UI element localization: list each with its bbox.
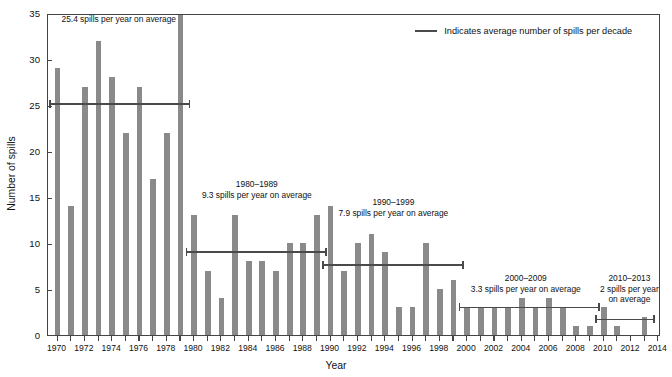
x-tick-label: 2014 bbox=[637, 343, 672, 353]
x-tick-mark bbox=[152, 336, 153, 341]
plot-area: 1970–197925.4 spills per year on average… bbox=[47, 14, 660, 336]
y-tick-label: 20 bbox=[10, 146, 40, 157]
x-tick-mark bbox=[452, 336, 453, 341]
decade-annotation-label: 1980–1989 bbox=[202, 179, 312, 190]
x-tick-mark bbox=[357, 336, 358, 341]
x-tick-mark bbox=[493, 336, 494, 341]
x-tick-mark bbox=[111, 336, 112, 341]
y-tick-mark bbox=[47, 152, 52, 153]
x-tick-mark bbox=[125, 336, 126, 341]
x-tick-mark bbox=[261, 336, 262, 341]
x-tick-mark bbox=[562, 336, 563, 341]
x-tick-mark bbox=[630, 336, 631, 341]
x-tick-mark bbox=[644, 336, 645, 341]
legend: Indicates average number of spills per d… bbox=[415, 26, 632, 36]
x-tick-mark bbox=[371, 336, 372, 341]
decade-annotation: 2010–20132 spills per yearon average bbox=[600, 273, 659, 305]
y-tick-mark bbox=[47, 106, 52, 107]
x-tick-mark bbox=[657, 336, 658, 341]
decade-annotation: 1980–19899.3 spills per year on average bbox=[202, 179, 312, 200]
decade-annotation-note: 3.3 spills per year on average bbox=[471, 284, 581, 295]
x-tick-mark bbox=[316, 336, 317, 341]
x-tick-mark bbox=[248, 336, 249, 341]
x-tick-mark bbox=[507, 336, 508, 341]
x-tick-mark bbox=[425, 336, 426, 341]
decade-annotation-note: 25.4 spills per year on average bbox=[61, 14, 176, 24]
x-tick-mark bbox=[330, 336, 331, 341]
x-tick-mark bbox=[603, 336, 604, 341]
decade-annotation-label: 2000–2009 bbox=[471, 273, 581, 284]
x-tick-mark bbox=[412, 336, 413, 341]
decade-annotation: 2000–20093.3 spills per year on average bbox=[471, 273, 581, 294]
chart-root: Number of spills 1970–197925.4 spills pe… bbox=[0, 0, 672, 377]
y-axis-title: Number of spills bbox=[6, 129, 17, 219]
x-tick-mark bbox=[57, 336, 58, 341]
decade-annotation-label: 2010–2013 bbox=[600, 273, 659, 284]
x-tick-mark bbox=[84, 336, 85, 341]
decade-annotation-note: 7.9 spills per year on average bbox=[338, 208, 448, 219]
x-axis-title: Year bbox=[0, 360, 672, 371]
x-tick-mark bbox=[589, 336, 590, 341]
y-tick-label: 30 bbox=[10, 54, 40, 65]
x-tick-mark bbox=[439, 336, 440, 341]
x-tick-mark bbox=[275, 336, 276, 341]
x-tick-mark bbox=[521, 336, 522, 341]
x-tick-mark bbox=[234, 336, 235, 341]
decade-annotations-layer: 1970–197925.4 spills per year on average… bbox=[48, 15, 659, 335]
decade-annotation-note: on average bbox=[600, 294, 659, 305]
decade-annotation-note: 9.3 spills per year on average bbox=[202, 190, 312, 201]
y-tick-label: 10 bbox=[10, 238, 40, 249]
x-tick-mark bbox=[98, 336, 99, 341]
x-tick-mark bbox=[480, 336, 481, 341]
y-tick-mark bbox=[47, 60, 52, 61]
y-tick-mark bbox=[47, 244, 52, 245]
x-tick-mark bbox=[70, 336, 71, 341]
decade-annotation: 1970–197925.4 spills per year on average bbox=[61, 14, 176, 24]
y-tick-label: 0 bbox=[10, 330, 40, 341]
x-tick-mark bbox=[138, 336, 139, 341]
x-tick-mark bbox=[166, 336, 167, 341]
x-tick-mark bbox=[193, 336, 194, 341]
x-tick-mark bbox=[384, 336, 385, 341]
x-tick-mark bbox=[343, 336, 344, 341]
decade-annotation: 1990–19997.9 spills per year on average bbox=[338, 197, 448, 218]
decade-annotation-label: 1990–1999 bbox=[338, 197, 448, 208]
x-tick-mark bbox=[289, 336, 290, 341]
y-tick-mark bbox=[47, 290, 52, 291]
y-tick-label: 25 bbox=[10, 100, 40, 111]
x-tick-mark bbox=[207, 336, 208, 341]
x-tick-mark bbox=[179, 336, 180, 341]
legend-line-marker bbox=[415, 30, 437, 32]
decade-annotation-note: 2 spills per year bbox=[600, 284, 659, 295]
y-tick-label: 15 bbox=[10, 192, 40, 203]
legend-label: Indicates average number of spills per d… bbox=[444, 26, 632, 36]
x-tick-mark bbox=[534, 336, 535, 341]
x-tick-mark bbox=[575, 336, 576, 341]
x-tick-mark bbox=[220, 336, 221, 341]
x-tick-mark bbox=[398, 336, 399, 341]
x-tick-mark bbox=[466, 336, 467, 341]
x-tick-mark bbox=[616, 336, 617, 341]
y-tick-label: 5 bbox=[10, 284, 40, 295]
y-tick-label: 35 bbox=[10, 8, 40, 19]
x-tick-mark bbox=[548, 336, 549, 341]
y-tick-mark bbox=[47, 198, 52, 199]
x-tick-mark bbox=[302, 336, 303, 341]
